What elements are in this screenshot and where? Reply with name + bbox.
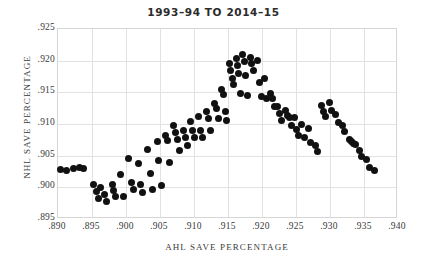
data-point bbox=[274, 103, 281, 110]
data-point bbox=[199, 134, 206, 141]
data-point bbox=[112, 193, 119, 200]
data-point bbox=[174, 136, 181, 143]
data-point bbox=[230, 81, 237, 88]
data-point bbox=[227, 67, 234, 74]
data-point bbox=[117, 171, 124, 178]
data-point bbox=[144, 146, 151, 153]
data-point bbox=[341, 128, 348, 135]
data-point bbox=[187, 118, 194, 125]
data-point bbox=[322, 113, 329, 120]
data-point bbox=[226, 60, 233, 67]
data-point bbox=[371, 167, 378, 174]
data-point bbox=[103, 198, 110, 205]
data-point bbox=[147, 170, 154, 177]
data-point bbox=[242, 72, 249, 79]
data-point bbox=[207, 127, 214, 134]
y-axis-title: NHL SAVE PERCENTAGE bbox=[22, 22, 32, 212]
data-point bbox=[125, 155, 132, 162]
data-point bbox=[203, 108, 210, 115]
data-point bbox=[90, 181, 97, 188]
data-point bbox=[139, 189, 146, 196]
data-point bbox=[97, 184, 104, 191]
data-point bbox=[244, 92, 251, 99]
data-point bbox=[149, 186, 156, 193]
data-point bbox=[314, 148, 321, 155]
x-tick-label: .940 bbox=[377, 221, 417, 231]
x-axis-ticks: .890.895.900.905.910.915.920.925.930.935… bbox=[0, 221, 427, 237]
data-point bbox=[182, 134, 189, 141]
x-axis-title: AHL SAVE PERCENTAGE bbox=[57, 242, 397, 252]
data-point bbox=[195, 113, 202, 120]
data-point bbox=[213, 105, 220, 112]
data-point bbox=[130, 186, 137, 193]
data-point bbox=[120, 193, 127, 200]
data-point bbox=[154, 138, 161, 145]
data-point bbox=[137, 181, 144, 188]
data-point bbox=[291, 114, 298, 121]
scatter-chart-figure: 1993–94 TO 2014–15 .895.900.905.910.915.… bbox=[0, 0, 427, 272]
data-point bbox=[254, 57, 261, 64]
data-point bbox=[237, 90, 244, 97]
data-point bbox=[205, 115, 212, 122]
data-point bbox=[305, 125, 312, 132]
data-point bbox=[172, 129, 179, 136]
data-point bbox=[128, 179, 135, 186]
data-point bbox=[176, 147, 183, 154]
data-point bbox=[326, 99, 333, 106]
data-point bbox=[191, 134, 198, 141]
data-point bbox=[180, 127, 187, 134]
data-point bbox=[135, 160, 142, 167]
data-point bbox=[197, 127, 204, 134]
data-point bbox=[184, 142, 191, 149]
plot-area bbox=[57, 28, 397, 218]
data-point bbox=[298, 121, 305, 128]
data-point bbox=[363, 156, 370, 163]
data-point bbox=[332, 111, 339, 118]
data-point bbox=[220, 91, 227, 98]
data-point bbox=[158, 182, 165, 189]
data-point bbox=[269, 95, 276, 102]
data-point bbox=[261, 75, 268, 82]
data-point bbox=[170, 122, 177, 129]
data-point bbox=[223, 117, 230, 124]
data-point bbox=[164, 137, 171, 144]
data-point bbox=[222, 108, 229, 115]
data-point bbox=[250, 67, 257, 74]
chart-title: 1993–94 TO 2014–15 bbox=[0, 6, 427, 18]
data-point bbox=[155, 157, 162, 164]
data-point bbox=[189, 127, 196, 134]
data-point bbox=[234, 62, 241, 69]
data-point bbox=[239, 51, 246, 58]
data-points-layer bbox=[58, 29, 396, 217]
data-point bbox=[215, 115, 222, 122]
data-point bbox=[80, 165, 87, 172]
data-point bbox=[166, 159, 173, 166]
